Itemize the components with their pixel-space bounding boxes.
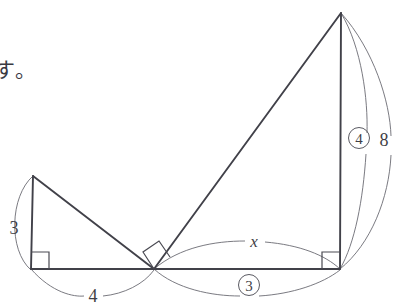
label-4-bottom: 4 — [89, 286, 98, 306]
arc-x-left — [154, 241, 245, 269]
arc-x-right — [265, 242, 340, 269]
arc-4-circled-lower — [340, 154, 366, 269]
arc-3-circled-right — [259, 270, 340, 296]
arc-4-bottom-right — [103, 270, 154, 296]
label-4-circled: 4 — [355, 131, 363, 147]
edge-right-hypotenuse — [154, 13, 341, 269]
label-3-left: 3 — [10, 218, 19, 238]
right-angle-mark-left-icon — [31, 252, 49, 269]
figure-page: す。 — [0, 0, 404, 307]
arc-3-circled-left — [154, 269, 240, 296]
label-x: x — [249, 232, 258, 251]
arc-4-bottom — [31, 269, 84, 296]
label-8: 8 — [380, 130, 389, 150]
edge-left-vertical — [31, 176, 33, 269]
label-3-circled: 3 — [245, 278, 253, 294]
arc-4-circled-upper — [341, 13, 367, 133]
geometry-diagram: 3 4 x 3 4 8 — [0, 0, 404, 307]
edge-right-vertical — [340, 13, 341, 269]
arc-8-upper — [341, 13, 391, 136]
edge-left-hypotenuse — [33, 176, 154, 269]
